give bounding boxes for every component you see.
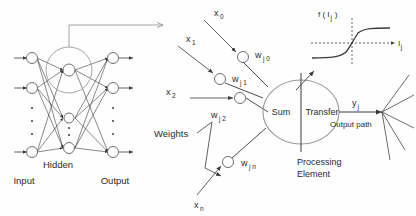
pe-output-path (339, 75, 414, 160)
pe-output-fanout (382, 75, 414, 160)
network-hidden-ellipsis (68, 127, 70, 136)
pe-weights-caption: Weights (154, 128, 188, 139)
network-input-arrows (14, 58, 27, 152)
pe-input-label-xn: xn (194, 200, 204, 212)
pe-weight-label-wjn: wj n (240, 158, 256, 171)
network-input-ellipsis (31, 107, 33, 135)
network-layer-output-nodes (108, 53, 119, 158)
network-label-input: Input (13, 175, 34, 186)
network-diagram: Hidden Input Output (13, 25, 163, 186)
network-output-ellipsis (112, 107, 114, 135)
pe-weight-label-wj0: wj 0 (254, 50, 270, 63)
diagram-svg: Hidden Input Output (0, 0, 416, 216)
network-output-arrows (119, 58, 133, 152)
pe-weights-leader (197, 122, 221, 176)
plot-y-axis-label: f ( Ij ) (318, 10, 338, 22)
pe-input-label-x0: x0 (214, 8, 224, 20)
pe-weight-label-wj2: wj 2 (210, 110, 226, 123)
transfer-function-plot (311, 18, 395, 66)
plot-x-axis-label: Ij (398, 39, 402, 51)
processing-element-diagram (178, 20, 414, 195)
neuron-text-labels: x0 x1 x2 xn wj 0 wj 1 wj 2 wj n Weights … (154, 8, 402, 212)
pe-sum-label: Sum (272, 107, 291, 117)
network-layer-hidden-nodes (63, 64, 75, 154)
network-label-output: Output (101, 175, 130, 186)
pe-output-path-caption: Output path (330, 120, 372, 129)
network-layer-input-nodes (27, 53, 38, 158)
pe-caption-line2: Element (297, 169, 331, 179)
pe-output-label-yj: yj (352, 98, 359, 111)
pe-caption-line1: Processing (297, 157, 342, 167)
figure-canvas: Hidden Input Output (0, 0, 416, 216)
pe-transfer-label: Transfer (305, 107, 338, 117)
network-label-hidden: Hidden (43, 159, 73, 170)
network-edges-input-hidden (37, 58, 63, 152)
pe-weight-label-wj1: wj 1 (231, 74, 247, 87)
pe-weight-nodes (215, 52, 249, 168)
pe-input-label-x1: x1 (186, 34, 196, 46)
pe-input-label-x2: x2 (166, 87, 176, 99)
